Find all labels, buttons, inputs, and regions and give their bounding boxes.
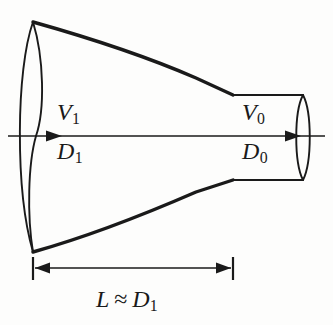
inlet-velocity-symbol: V: [57, 99, 72, 125]
cone-lower-contour: [33, 180, 233, 252]
inlet-diameter-subscript: 1: [75, 149, 83, 166]
outlet-diameter-symbol: D: [242, 138, 259, 164]
inlet-ellipse-front-arc-lower: [29, 136, 36, 252]
inlet-diameter-symbol: D: [57, 138, 74, 164]
outlet-ellipse-back-arc: [303, 95, 310, 180]
outlet-velocity-label: V0: [242, 100, 265, 127]
inlet-velocity-label: V1: [57, 100, 80, 127]
outlet-ellipse-front-arc: [296, 95, 303, 180]
length-rhs-subscript: 1: [150, 297, 158, 314]
inlet-diameter-label: D1: [57, 139, 83, 166]
length-symbol: L: [96, 286, 109, 312]
outlet-velocity-subscript: 0: [257, 110, 265, 127]
diagram-canvas: [0, 0, 333, 325]
approx-equal-icon: ≈: [114, 286, 127, 312]
length-rhs-symbol: D: [132, 286, 149, 312]
inlet-velocity-subscript: 1: [72, 110, 80, 127]
arrow-right-icon-outlet: [285, 131, 301, 142]
inlet-ellipse-front-arc-upper: [33, 22, 42, 136]
diffuser-diagram: V1 D1 V0 D0 L≈D1: [0, 0, 333, 325]
arrow-left-icon-dimension: [35, 263, 50, 274]
outlet-velocity-symbol: V: [242, 99, 257, 125]
arrow-right-icon-dimension: [216, 263, 231, 274]
outlet-diameter-label: D0: [242, 139, 268, 166]
inlet-ellipse-back-arc: [20, 22, 33, 252]
length-relation-label: L≈D1: [96, 287, 158, 314]
outlet-diameter-subscript: 0: [260, 149, 268, 166]
cone-upper-contour: [33, 22, 233, 95]
